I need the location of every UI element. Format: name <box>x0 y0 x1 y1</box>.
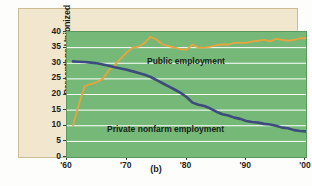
chart-lines <box>67 32 306 157</box>
series-label-private: Private nonfarm employment <box>107 124 224 134</box>
y-tick-label: 35 <box>41 41 61 51</box>
chart-panel: Percentage Unionized 0510152025303540 '6… <box>18 8 298 158</box>
y-tick-label: 15 <box>41 104 61 114</box>
y-tick-label: 20 <box>41 88 61 98</box>
y-tick-label: 10 <box>41 119 61 129</box>
y-tick-label: 25 <box>41 72 61 82</box>
figure-panel-b: Percentage Unionized 0510152025303540 '6… <box>0 0 312 186</box>
series-line-public <box>73 37 306 126</box>
plot-area <box>66 31 307 158</box>
y-tick-label: 5 <box>41 135 61 145</box>
y-tick-label: 0 <box>41 151 61 161</box>
y-tick-label: 30 <box>41 57 61 67</box>
figure-caption: (b) <box>0 164 312 174</box>
y-tick-label: 40 <box>41 26 61 36</box>
series-label-public: Public employment <box>147 56 225 66</box>
